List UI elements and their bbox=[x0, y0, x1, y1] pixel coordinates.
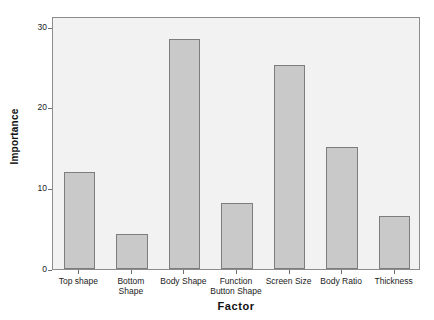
y-axis-tick-label: 30 bbox=[38, 22, 47, 32]
x-axis-tick-mark bbox=[394, 270, 395, 274]
bar-chart: Importance 0102030 Top shapeBottom Shape… bbox=[0, 0, 434, 320]
x-axis-category-label: Thickness bbox=[367, 276, 420, 286]
y-axis-tick-label: 0 bbox=[42, 264, 47, 274]
x-axis-tick-mark bbox=[131, 270, 132, 274]
x-axis-category-label: Body Ratio bbox=[315, 276, 368, 286]
x-axis-category-label: Bottom Shape bbox=[105, 276, 158, 296]
x-axis-tick-mark bbox=[236, 270, 237, 274]
x-axis-title: Factor bbox=[52, 300, 420, 312]
bar bbox=[221, 203, 253, 269]
x-axis-tick-mark bbox=[183, 270, 184, 274]
bar bbox=[379, 216, 411, 269]
x-axis-tick-mark bbox=[78, 270, 79, 274]
bars-layer bbox=[53, 18, 419, 269]
bar bbox=[64, 172, 96, 269]
x-axis-tick-mark bbox=[341, 270, 342, 274]
x-axis-ticks bbox=[52, 270, 420, 275]
bar bbox=[116, 234, 148, 269]
y-axis-title-label: Importance bbox=[10, 108, 21, 164]
x-axis-category-label: Body Shape bbox=[157, 276, 210, 286]
y-axis-tick-label: 10 bbox=[38, 183, 47, 193]
bar bbox=[274, 65, 306, 269]
x-axis-tick-mark bbox=[289, 270, 290, 274]
x-axis-category-label: Function Button Shape bbox=[210, 276, 263, 296]
bar bbox=[169, 39, 201, 269]
plot-area bbox=[52, 17, 420, 270]
x-axis-category-label: Screen Size bbox=[262, 276, 315, 286]
x-axis-category-label: Top shape bbox=[52, 276, 105, 286]
y-axis-ticks: 0102030 bbox=[24, 0, 52, 320]
y-axis-tick-label: 20 bbox=[38, 102, 47, 112]
x-axis-category-labels: Top shapeBottom ShapeBody ShapeFunction … bbox=[52, 276, 420, 302]
bar bbox=[326, 147, 358, 269]
